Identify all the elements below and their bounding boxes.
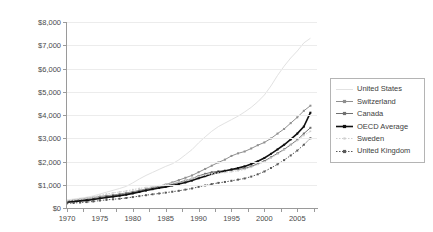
x-tick-label: 2000 xyxy=(256,214,273,223)
series-marker xyxy=(277,148,279,150)
x-tick-mark xyxy=(182,208,183,212)
y-tick-mark xyxy=(63,162,67,163)
series-marker xyxy=(119,198,121,200)
series-marker xyxy=(138,191,140,193)
y-tick-mark xyxy=(63,92,67,93)
y-tick-mark xyxy=(63,138,67,139)
y-tick-label: $6,000 xyxy=(38,64,61,73)
series-marker xyxy=(191,174,193,176)
series-marker xyxy=(283,144,285,146)
series-marker xyxy=(303,110,305,112)
series-marker xyxy=(303,126,305,128)
gridline xyxy=(67,92,317,93)
legend-swatch-icon xyxy=(336,134,353,143)
series-marker xyxy=(158,187,160,189)
series-marker xyxy=(270,157,272,159)
series-marker xyxy=(309,127,311,129)
legend-item[interactable]: OECD Average xyxy=(336,120,419,132)
series-marker xyxy=(230,168,232,170)
gridline xyxy=(67,69,317,70)
series-marker xyxy=(99,195,101,197)
chart-container: Per Capita Spending - PPP Adjusted $0$1,… xyxy=(0,0,433,232)
series-marker xyxy=(184,181,186,183)
legend-label: United Kingdom xyxy=(357,147,410,155)
series-marker xyxy=(152,193,154,195)
series-marker xyxy=(185,180,187,182)
x-tick-label: 1995 xyxy=(223,214,240,223)
x-tick-mark xyxy=(67,208,68,212)
legend-label: OECD Average xyxy=(357,123,408,131)
series-marker xyxy=(152,186,154,188)
x-tick-mark xyxy=(149,208,150,212)
series-marker xyxy=(198,176,200,178)
legend-item[interactable]: Canada xyxy=(336,108,419,120)
series-marker xyxy=(250,147,252,149)
series-marker xyxy=(132,196,134,198)
series-marker xyxy=(244,151,246,153)
series-marker xyxy=(309,105,311,107)
series-marker xyxy=(178,181,180,183)
y-tick-mark xyxy=(63,69,67,70)
series-marker xyxy=(296,133,298,135)
series-marker xyxy=(270,167,272,169)
series-marker xyxy=(125,190,127,192)
x-tick-mark xyxy=(116,208,117,212)
series-marker xyxy=(158,192,160,194)
series-marker xyxy=(93,196,95,198)
series-marker xyxy=(309,112,311,114)
x-tick-mark xyxy=(100,208,101,212)
plot-area: $0$1,000$2,000$3,000$4,000$5,000$6,000$7… xyxy=(67,22,317,208)
series-marker xyxy=(92,200,94,202)
series-marker xyxy=(310,130,312,132)
x-tick-label: 2005 xyxy=(289,214,306,223)
series-marker xyxy=(296,150,298,152)
series-line xyxy=(67,131,310,201)
legend-item[interactable]: Switzerland xyxy=(336,95,419,107)
gridline xyxy=(67,45,317,46)
series-marker xyxy=(112,198,114,200)
series-marker xyxy=(178,179,180,181)
series-marker xyxy=(86,197,88,199)
series-marker xyxy=(198,171,200,173)
series-marker xyxy=(263,171,265,173)
series-line xyxy=(67,138,310,203)
x-tick-label: 1970 xyxy=(59,214,76,223)
series-marker xyxy=(125,194,127,196)
legend-item[interactable]: United States xyxy=(336,83,419,95)
series-marker xyxy=(250,167,252,169)
series-marker xyxy=(139,188,141,190)
x-tick-mark xyxy=(248,208,249,212)
series-marker xyxy=(152,188,154,190)
gridline xyxy=(67,162,317,163)
legend-label: Switzerland xyxy=(357,98,396,106)
series-marker xyxy=(73,199,75,201)
series-marker xyxy=(283,149,285,151)
series-marker xyxy=(244,177,246,179)
series-marker xyxy=(171,191,173,193)
series-marker xyxy=(145,194,147,196)
y-tick-label: $2,000 xyxy=(38,157,61,166)
series-marker xyxy=(119,195,121,197)
series-marker xyxy=(277,133,279,135)
series-marker xyxy=(145,187,147,189)
series-marker xyxy=(224,172,226,174)
legend-label: Sweden xyxy=(357,135,384,143)
series-marker xyxy=(204,168,206,170)
y-tick-mark xyxy=(63,185,67,186)
x-tick-mark xyxy=(166,208,167,212)
legend-item[interactable]: United Kingdom xyxy=(336,145,419,157)
series-marker xyxy=(257,144,259,146)
y-tick-mark xyxy=(63,22,67,23)
x-tick-mark xyxy=(133,208,134,212)
series-marker xyxy=(184,177,186,179)
series-marker xyxy=(218,172,220,174)
legend-swatch-icon xyxy=(336,109,353,118)
series-marker xyxy=(165,186,167,188)
series-marker xyxy=(67,202,68,204)
series-marker xyxy=(99,200,101,202)
series-marker xyxy=(211,173,213,175)
x-tick-label: 1985 xyxy=(157,214,174,223)
series-marker xyxy=(198,177,200,179)
legend-item[interactable]: Sweden xyxy=(336,133,419,145)
x-tick-label: 1990 xyxy=(190,214,207,223)
